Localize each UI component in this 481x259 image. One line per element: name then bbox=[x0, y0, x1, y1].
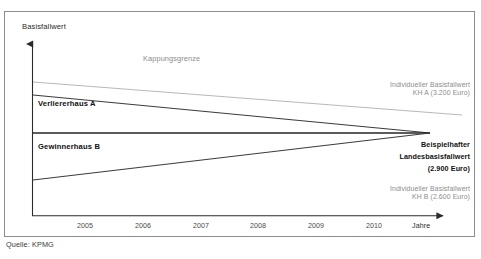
x-tick-2007: 2007 bbox=[184, 222, 218, 230]
source-note: Quelle: KPMG bbox=[6, 240, 54, 249]
annotation-lbfw-line3: (2.900 Euro) bbox=[340, 165, 470, 173]
annotation-kh-b-line2: KH B (2.600 Euro) bbox=[358, 193, 470, 201]
annotation-kh-b: Individueller Basisfallwert KH B (2.600 … bbox=[358, 185, 470, 201]
annotation-lbfw-line1: Beispielhafter bbox=[340, 141, 470, 149]
x-tick-2005: 2005 bbox=[68, 222, 102, 230]
annotation-verliererhaus-a: Verliererhaus A bbox=[38, 100, 96, 109]
annotation-kh-b-line1: Individueller Basisfallwert bbox=[358, 185, 470, 193]
chart-canvas bbox=[0, 0, 481, 259]
x-axis-title: Jahre bbox=[412, 222, 430, 230]
x-tick-2008: 2008 bbox=[241, 222, 275, 230]
figure-root: Basisfallwert Kappungsgrenze Verliererha… bbox=[0, 0, 481, 259]
annotation-landesbasisfallwert: Beispielhafter Landesbasisfallwert (2.90… bbox=[340, 141, 470, 173]
y-axis-title: Basisfallwert bbox=[22, 23, 66, 32]
x-tick-2010: 2010 bbox=[357, 222, 391, 230]
annotation-lbfw-line2: Landesbasisfallwert bbox=[340, 153, 470, 161]
annotation-gewinnerhaus-b: Gewinnerhaus B bbox=[38, 143, 100, 152]
annotation-kappungsgrenze: Kappungsgrenze bbox=[143, 55, 200, 64]
annotation-kh-a-line2: KH A (3.200 Euro) bbox=[358, 89, 470, 97]
annotation-kh-a-line1: Individueller Basisfallwert bbox=[358, 81, 470, 89]
x-tick-2006: 2006 bbox=[126, 222, 160, 230]
x-tick-2009: 2009 bbox=[299, 222, 333, 230]
annotation-kh-a: Individueller Basisfallwert KH A (3.200 … bbox=[358, 81, 470, 97]
